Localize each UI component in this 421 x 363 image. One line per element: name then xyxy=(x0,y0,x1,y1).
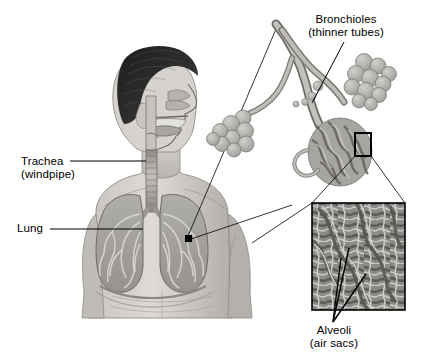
label-bronchioles: Bronchioles (thinner tubes) xyxy=(300,13,392,39)
bronchiole-tree-diagram xyxy=(207,24,397,186)
respiratory-system-figure: Trachea (windpipe) Lung Bronchioles (thi… xyxy=(0,0,421,363)
label-alveoli: Alveoli (air sacs) xyxy=(288,324,380,350)
label-trachea: Trachea (windpipe) xyxy=(21,155,75,181)
head-sagittal-section xyxy=(113,46,198,152)
label-alveoli-line2: (air sacs) xyxy=(288,337,380,350)
anatomy-illustration xyxy=(0,0,421,363)
label-trachea-line2: (windpipe) xyxy=(21,168,75,181)
alveolar-mass-detail xyxy=(294,118,372,186)
label-bronchioles-line2: (thinner tubes) xyxy=(300,26,392,39)
label-lung-line1: Lung xyxy=(17,222,43,235)
chest-callout-marker xyxy=(185,235,192,242)
label-trachea-line1: Trachea xyxy=(21,155,75,168)
label-alveoli-line1: Alveoli xyxy=(288,324,380,337)
alveolar-cluster-upper xyxy=(344,54,397,111)
label-bronchioles-line1: Bronchioles xyxy=(300,13,392,26)
alveolar-cluster-lower-left xyxy=(207,110,255,157)
alveoli-micrograph-inset xyxy=(312,203,405,322)
label-lung: Lung xyxy=(17,222,43,235)
